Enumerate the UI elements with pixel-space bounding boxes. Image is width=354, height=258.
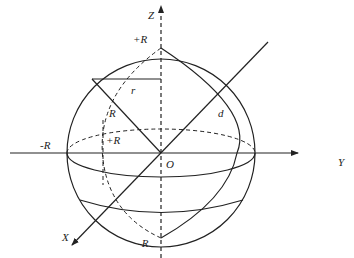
top-plus-r-label: +R — [133, 33, 147, 45]
left-minus-r-label: -R — [40, 139, 51, 151]
y-axis-label: Y — [338, 156, 346, 168]
origin-label: O — [166, 158, 174, 170]
small-r-label: r — [131, 84, 136, 96]
z-axis-label: Z — [148, 9, 155, 21]
bottom-minus-r-label: -R — [138, 237, 149, 249]
x-axis — [72, 42, 268, 245]
x-axis-label: X — [61, 231, 70, 243]
inner-plus-r-label: +R — [106, 134, 120, 146]
sphere-diagram: Z Y X O +R -R -R +R r R d — [0, 0, 354, 258]
big-R-label: R — [108, 107, 116, 119]
d-label: d — [218, 107, 224, 119]
